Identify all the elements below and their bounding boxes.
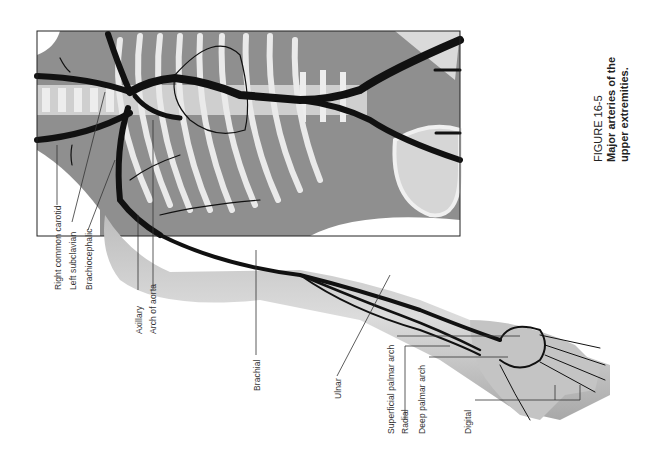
label-digital: Digital <box>463 410 473 434</box>
arm <box>104 215 610 420</box>
label-axillary: Axillary <box>134 306 144 334</box>
caption-line-1: Major arteries of the <box>605 57 618 162</box>
caption-line-2: upper extremities. <box>618 57 631 162</box>
label-left-subclavian: Left subclavian <box>68 232 78 290</box>
label-right-common-carotid: Right common carotid <box>53 205 63 290</box>
label-superficial-palmar-arch: Superficial palmar arch <box>386 345 396 434</box>
label-radial: Radial <box>400 409 410 434</box>
label-deep-palmar-arch: Deep palmar arch <box>417 365 427 434</box>
torso-panel <box>37 31 460 236</box>
arteries-illustration <box>0 0 649 458</box>
label-brachiocephalic: Brachiocephalic <box>84 228 94 290</box>
label-ulnar: Ulnar <box>333 378 343 399</box>
figure-caption: FIGURE 16-5 Major arteries of the upper … <box>592 57 631 162</box>
label-brachial: Brachial <box>252 359 262 391</box>
label-arch-of-aorta: Arch of aorta <box>148 284 158 334</box>
figure-number: FIGURE 16-5 <box>592 57 605 162</box>
